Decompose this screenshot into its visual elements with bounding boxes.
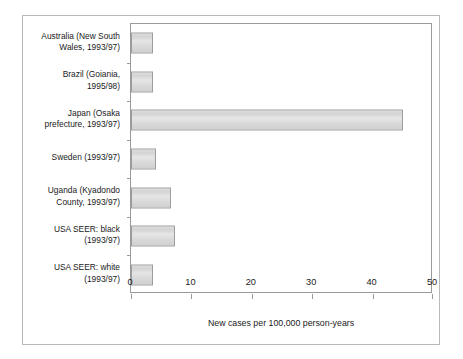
x-axis-tick-label: 50	[417, 277, 447, 288]
y-axis-label: USA SEER: black (1993/97)	[8, 216, 126, 255]
y-axis-label: Sweden (1993/97)	[8, 139, 126, 178]
y-axis-tick	[127, 140, 131, 141]
y-axis-label-text: USA SEER: black (1993/97)	[54, 224, 126, 247]
y-axis-label-text: Australia (New South Wales, 1993/97)	[41, 31, 126, 54]
x-axis-tick	[252, 294, 253, 299]
x-axis-tick	[432, 294, 433, 299]
y-axis-label-text: Brazil (Goiania, 1995/98)	[63, 69, 126, 92]
chart-figure: Australia (New South Wales, 1993/97) Bra…	[0, 0, 463, 359]
y-axis-tick	[127, 63, 131, 64]
y-axis-tick	[127, 178, 131, 179]
x-axis-tick-label: 30	[296, 277, 326, 288]
bar-japan	[131, 110, 403, 131]
bar-row	[131, 140, 431, 179]
y-axis-tick	[127, 217, 131, 218]
x-axis-tick	[373, 294, 374, 299]
y-axis-label-text: Sweden (1993/97)	[52, 152, 126, 164]
bar-row	[131, 178, 431, 217]
x-axis-tick	[131, 294, 132, 299]
y-axis-label-text: Uganda (Kyadondo County, 1993/97)	[48, 185, 126, 208]
bar-row	[131, 24, 431, 63]
x-axis-title: New cases per 100,000 person-years	[130, 318, 432, 328]
y-axis-label: Australia (New South Wales, 1993/97)	[8, 23, 126, 62]
y-axis-label: Brazil (Goiania, 1995/98)	[8, 62, 126, 101]
bar-usa-seer-black	[131, 226, 175, 247]
y-axis-tick	[127, 101, 131, 102]
x-axis-tick-label: 10	[175, 277, 205, 288]
bar-row	[131, 63, 431, 102]
y-axis-label-text: Japan (Osaka prefecture, 1993/97)	[45, 108, 126, 131]
bar-sweden	[131, 148, 156, 169]
bar-row	[131, 255, 431, 294]
x-axis-tick-label: 40	[357, 277, 387, 288]
bar-uganda	[131, 187, 171, 208]
bar-row	[131, 217, 431, 256]
plot-area	[130, 23, 432, 293]
y-axis-label: Japan (Osaka prefecture, 1993/97)	[8, 100, 126, 139]
bar-australia	[131, 33, 153, 54]
x-axis-tick	[191, 294, 192, 299]
y-axis-tick	[127, 255, 131, 256]
x-axis-tick	[312, 294, 313, 299]
bar-brazil	[131, 71, 153, 92]
x-axis-tick-label: 20	[236, 277, 266, 288]
bar-row	[131, 101, 431, 140]
y-axis-label: USA SEER: white (1993/97)	[8, 254, 126, 293]
y-axis-labels: Australia (New South Wales, 1993/97) Bra…	[8, 23, 126, 293]
y-axis-label: Uganda (Kyadondo County, 1993/97)	[8, 177, 126, 216]
x-axis-tick-label: 0	[115, 277, 145, 288]
